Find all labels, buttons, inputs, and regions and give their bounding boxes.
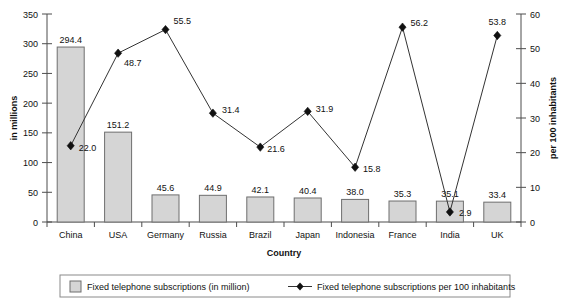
legend-swatch-bars — [70, 281, 81, 292]
bar-value-label: 38.0 — [346, 187, 364, 197]
left-tick-label: 350 — [23, 10, 38, 20]
bar-value-label: 35.3 — [394, 189, 412, 199]
right-tick-label: 40 — [530, 79, 540, 89]
bar-value-label: 40.4 — [299, 186, 317, 196]
right-tick-label: 50 — [530, 44, 540, 54]
category-label: UK — [491, 230, 504, 240]
category-label: China — [59, 230, 83, 240]
y2-axis-title: per 100 inhabitants — [548, 77, 558, 159]
line-marker — [162, 25, 169, 33]
x-axis-title: Country — [267, 248, 302, 258]
category-label: Russia — [199, 230, 227, 240]
line-marker — [257, 143, 264, 151]
y-axis-title: in millions — [9, 96, 19, 141]
line-marker — [209, 109, 216, 117]
bar — [57, 47, 84, 222]
line-value-label: 48.7 — [124, 58, 142, 68]
line-value-label: 55.5 — [174, 16, 192, 26]
legend-label-line: Fixed telephone subscriptions per 100 in… — [317, 282, 516, 292]
right-tick-label: 30 — [530, 114, 540, 124]
line-value-label: 21.6 — [267, 144, 285, 154]
bar-value-label: 294.4 — [59, 35, 82, 45]
line-value-label: 31.9 — [316, 104, 334, 114]
legend-label-bars: Fixed telephone subscriptions (in millio… — [87, 282, 250, 292]
bar-value-label: 151.2 — [107, 120, 130, 130]
left-tick-label: 300 — [23, 39, 38, 49]
category-label: India — [440, 230, 460, 240]
legend: Fixed telephone subscriptions (in millio… — [60, 275, 516, 297]
line-series — [71, 27, 498, 212]
line-marker — [399, 23, 406, 31]
line-value-label: 56.2 — [411, 18, 429, 28]
line-path — [71, 27, 498, 212]
bar — [294, 198, 321, 222]
left-tick-label: 200 — [23, 99, 38, 109]
bar-value-label: 45.6 — [157, 183, 175, 193]
line-marker — [115, 49, 122, 57]
left-tick-label: 150 — [23, 128, 38, 138]
left-tick-label: 0 — [33, 218, 38, 228]
bar — [152, 195, 179, 222]
left-tick-label: 250 — [23, 69, 38, 79]
chart-container: 050100150200250300350 0102030405060 294.… — [0, 0, 569, 302]
category-label: Germany — [147, 230, 185, 240]
right-tick-label: 20 — [530, 148, 540, 158]
category-labels: ChinaUSAGermanyRussiaBrazilJapanIndonesi… — [59, 230, 504, 240]
category-label: Japan — [295, 230, 320, 240]
bar-value-label: 44.9 — [204, 183, 222, 193]
right-tick-label: 0 — [530, 218, 535, 228]
category-label: France — [388, 230, 416, 240]
x-axis-ticks — [47, 222, 521, 227]
line-value-label: 53.8 — [489, 17, 507, 27]
left-axis-ticks: 050100150200250300350 — [23, 10, 52, 228]
line-value-label: 15.8 — [363, 164, 381, 174]
category-label: Indonesia — [336, 230, 375, 240]
line-markers — [67, 23, 501, 216]
line-value-label: 22.0 — [79, 143, 97, 153]
line-value-labels: 22.048.755.531.421.631.915.856.22.953.8 — [79, 16, 506, 218]
bar — [199, 195, 226, 222]
bar — [247, 197, 274, 222]
bar — [484, 202, 511, 222]
line-value-label: 31.4 — [222, 105, 240, 115]
bar — [105, 132, 132, 222]
left-tick-label: 50 — [28, 188, 38, 198]
line-value-label: 2.9 — [459, 208, 472, 218]
left-tick-label: 100 — [23, 158, 38, 168]
bar — [389, 201, 416, 222]
right-tick-label: 60 — [530, 10, 540, 20]
line-marker — [494, 31, 501, 39]
dual-axis-chart: 050100150200250300350 0102030405060 294.… — [0, 0, 569, 302]
bar-value-label: 33.4 — [489, 190, 507, 200]
right-axis-ticks: 0102030405060 — [516, 10, 540, 228]
bar-value-label: 42.1 — [252, 185, 270, 195]
category-label: Brazil — [249, 230, 272, 240]
right-tick-label: 10 — [530, 183, 540, 193]
bar — [342, 199, 369, 222]
category-label: USA — [109, 230, 128, 240]
